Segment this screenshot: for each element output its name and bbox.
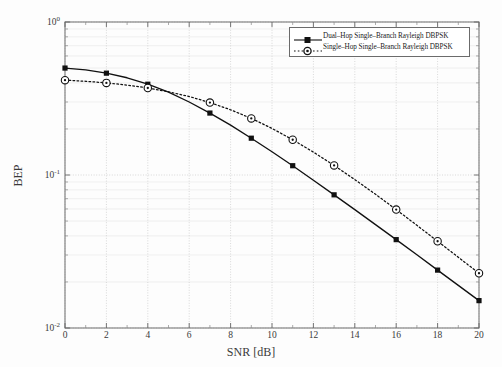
- legend-item-dual-hop: Dual–Hop Single–Branch Rayleigh DBPSK: [293, 31, 466, 41]
- legend-label-single-hop: Single–Hop Single–Branch Rayleigh DBPSK: [323, 43, 453, 51]
- x-tick-label: 18: [433, 330, 443, 340]
- x-tick-label: 6: [187, 330, 192, 340]
- x-tick-label: 4: [145, 330, 150, 340]
- x-tick-label: 14: [350, 330, 360, 340]
- data-series-group: [61, 65, 482, 303]
- legend-swatch-solid-square-icon: [293, 31, 323, 41]
- legend: Dual–Hop Single–Branch Rayleigh DBPSK Si…: [289, 27, 470, 57]
- x-tick-label: 20: [474, 330, 484, 340]
- x-tick-label: 0: [63, 330, 68, 340]
- y-tick-labels: 10010-110-2: [26, 0, 60, 367]
- x-axis-label: SNR [dB]: [0, 345, 502, 360]
- legend-swatch-dotted-circle-icon: [293, 42, 323, 52]
- x-tick-label: 12: [309, 330, 319, 340]
- x-tick-label: 2: [104, 330, 109, 340]
- x-tick-label: 16: [391, 330, 401, 340]
- y-tick-label: 10-1: [45, 168, 60, 180]
- x-tick-label: 10: [267, 330, 277, 340]
- legend-label-dual-hop: Dual–Hop Single–Branch Rayleigh DBPSK: [323, 32, 448, 40]
- y-tick-label: 10-2: [45, 321, 60, 333]
- y-axis-label: BEP: [11, 146, 26, 206]
- y-tick-label: 100: [47, 15, 60, 27]
- figure-canvas: 10010-110-2 02468101214161820 BEP SNR [d…: [0, 0, 502, 367]
- x-tick-label: 8: [228, 330, 233, 340]
- legend-item-single-hop: Single–Hop Single–Branch Rayleigh DBPSK: [293, 42, 466, 52]
